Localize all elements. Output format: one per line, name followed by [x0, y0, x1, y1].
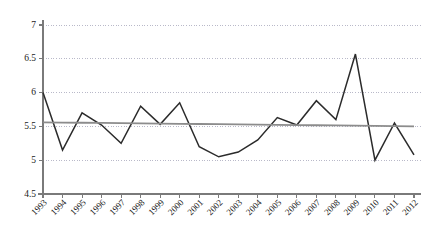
line-chart: 1993199419951996199719981999200020012002…: [0, 0, 436, 241]
y-tick-label: 6: [31, 87, 36, 97]
y-tick-label: 5.5: [24, 121, 36, 131]
y-tick-label: 6.5: [24, 53, 36, 63]
y-tick-label: 5: [31, 155, 36, 165]
chart-canvas: 1993199419951996199719981999200020012002…: [0, 0, 436, 241]
y-tick-label: 7: [31, 20, 36, 30]
y-tick-label: 4.5: [24, 189, 36, 199]
